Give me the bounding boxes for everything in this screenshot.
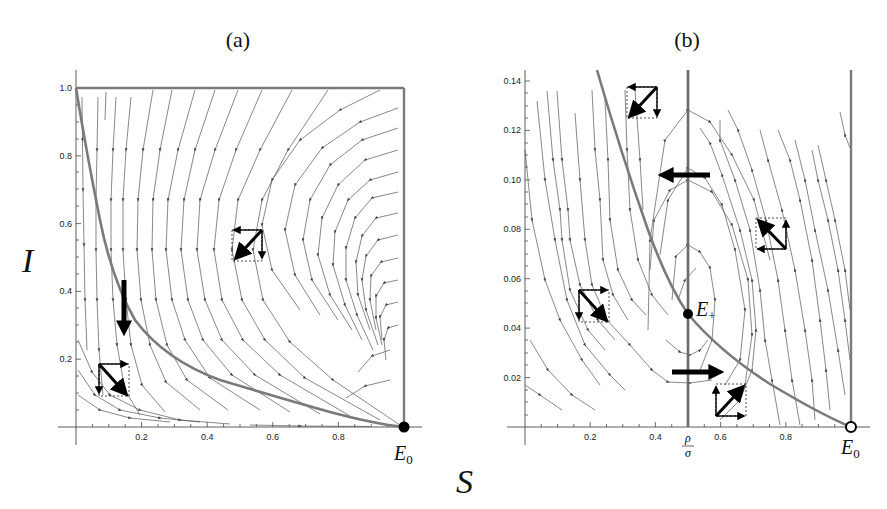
b-ytick-0.10: 0.10 [503, 175, 521, 185]
panel-b-direction-box-left [579, 290, 609, 322]
x-axis-label-S: S [456, 463, 473, 500]
panel-a-direction-box-lower [99, 364, 129, 396]
panel-a-streamlines [78, 90, 400, 427]
panel-b-direction-box-top [627, 87, 657, 118]
b-ytick-0.08: 0.08 [503, 224, 521, 234]
b-xtick-rho-over-sigma: ρ σ [682, 431, 694, 460]
b-ytick-0.04: 0.04 [503, 323, 521, 333]
panel-b-E0-label: E0 [840, 436, 860, 461]
a-xtick-0.2: 0.2 [135, 432, 148, 442]
b-xtick-0.2: 0.2 [584, 432, 597, 442]
panel-b-title: (b) [674, 27, 700, 52]
figure-canvas: (a) [0, 0, 887, 509]
a-xtick-0.8: 0.8 [332, 432, 345, 442]
rho-symbol: ρ [684, 431, 691, 445]
panel-b-nullcline-curve [597, 70, 851, 427]
b-xtick-0.6: 0.6 [714, 432, 727, 442]
a-xtick-0.4: 0.4 [201, 432, 214, 442]
panel-b-E0-point [846, 422, 856, 432]
a-xtick-0.6: 0.6 [267, 432, 280, 442]
y-axis-label-I: I [21, 242, 35, 279]
panel-a-nullcline [76, 88, 404, 427]
panel-a-title: (a) [226, 27, 250, 52]
panel-a-axes [58, 70, 422, 445]
b-ytick-0.12: 0.12 [503, 125, 521, 135]
a-ytick-0.6: 0.6 [59, 219, 72, 229]
panel-a-direction-box-upper [232, 230, 262, 261]
a-ytick-0.2: 0.2 [59, 354, 72, 364]
panel-a-E0-point [399, 422, 410, 433]
b-ytick-0.02: 0.02 [503, 373, 521, 383]
a-ytick-0.4: 0.4 [59, 286, 72, 296]
b-xtick-0.4: 0.4 [649, 432, 662, 442]
a-ytick-1.0: 1.0 [59, 83, 72, 93]
panel-a: (a) [58, 27, 422, 467]
b-xtick-0.8: 0.8 [780, 432, 793, 442]
a-ytick-0.8: 0.8 [59, 151, 72, 161]
b-ytick-0.14: 0.14 [503, 76, 521, 86]
b-ytick-0.06: 0.06 [503, 274, 521, 284]
panel-a-E0-label: E0 [393, 442, 413, 467]
sigma-symbol: σ [685, 446, 692, 460]
panel-b: (b) [503, 27, 870, 461]
panel-b-Eplus-label: E+ [695, 298, 716, 323]
panel-b-direction-box-bottom [716, 384, 746, 416]
panel-b-Eplus-point [683, 309, 693, 319]
